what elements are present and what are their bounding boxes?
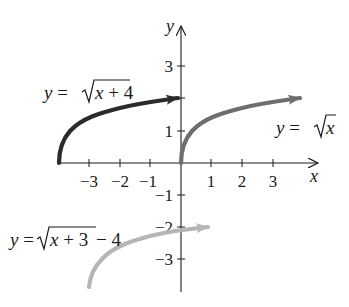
svg-text:− 4: − 4 bbox=[96, 229, 121, 250]
svg-text:x + 4: x + 4 bbox=[94, 82, 134, 103]
y-tick-label: 3 bbox=[165, 57, 174, 76]
x-tick-label: 3 bbox=[269, 172, 278, 191]
y-axis-label: y bbox=[164, 16, 174, 36]
curve-sqrt-x-plus-4 bbox=[59, 98, 178, 163]
x-tick-label: 2 bbox=[238, 172, 247, 191]
x-tick-label: −2 bbox=[111, 172, 129, 191]
y-tick-label: −1 bbox=[155, 186, 173, 205]
x-tick-label: −3 bbox=[80, 172, 98, 191]
x-axis-label: x bbox=[309, 166, 318, 186]
svg-text:y =: y = bbox=[8, 229, 34, 250]
svg-text:x: x bbox=[325, 117, 335, 138]
y-tick-label: 1 bbox=[165, 122, 174, 141]
equation-label-sqrt-x: y = x bbox=[274, 115, 336, 138]
y-tick-label: −3 bbox=[155, 250, 173, 269]
svg-text:y =: y = bbox=[42, 82, 68, 103]
equation-label-sqrt-x-plus-4: y = x + 4 bbox=[42, 80, 134, 103]
chart: −3 −2 −1 1 2 3 3 1 −1 −2 −3 y x y = x + … bbox=[0, 0, 349, 307]
svg-text:x + 3: x + 3 bbox=[49, 229, 88, 250]
x-tick-label: 1 bbox=[207, 172, 216, 191]
equation-label-sqrt-x-plus-3-minus-4: y = x + 3 − 4 bbox=[8, 227, 121, 250]
svg-text:y =: y = bbox=[274, 117, 300, 138]
